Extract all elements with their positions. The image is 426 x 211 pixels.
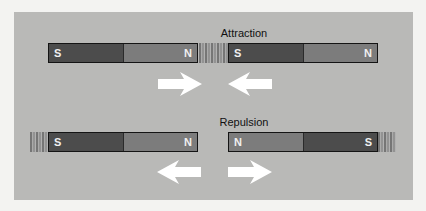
repulsion-right-magnet: N S [228, 132, 378, 152]
pole-label: N [234, 136, 242, 148]
right-arrow-icon [158, 72, 202, 96]
pole-label: S [54, 47, 61, 59]
magnetic-field-lines [30, 132, 48, 152]
attraction-right-magnet: S N [228, 43, 378, 63]
right-arrow-icon [228, 160, 272, 184]
pole-label: N [184, 136, 192, 148]
magnetic-field-lines [378, 132, 396, 152]
left-arrow-icon [228, 72, 272, 96]
diagram-panel [14, 12, 413, 200]
repulsion-left-magnet: S N [48, 132, 198, 152]
repulsion-title: Repulsion [184, 116, 304, 128]
magnetic-field-lines [199, 43, 228, 63]
left-arrow-icon [157, 160, 201, 184]
attraction-left-magnet: S N [48, 43, 198, 63]
pole-label: N [364, 47, 372, 59]
pole-label: S [54, 136, 61, 148]
attraction-title: Attraction [184, 27, 304, 39]
pole-label: S [234, 47, 241, 59]
pole-label: N [184, 47, 192, 59]
pole-label: S [365, 136, 372, 148]
